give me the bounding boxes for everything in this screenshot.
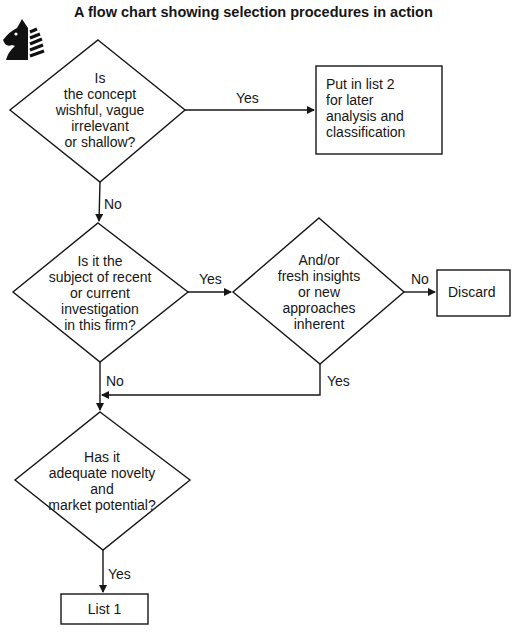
edge-label-q2-q4: No	[106, 373, 124, 389]
edge-q3-q4	[102, 364, 320, 395]
decision-q2-text: Is it the subject of recent or current i…	[40, 253, 160, 333]
edge-q1-q2	[99, 182, 100, 221]
process-list2-text: Put in list 2 for later analysis and cla…	[326, 76, 438, 140]
edge-label-q1-list2: Yes	[236, 90, 259, 106]
decision-q4-text: Has it adequate novelty and market poten…	[42, 449, 162, 513]
process-list1-text: List 1	[61, 601, 148, 617]
decision-q3-text: And/or fresh insights or new approaches …	[259, 252, 379, 332]
edge-label-q2-q3: Yes	[199, 271, 222, 287]
process-discard-text: Discard	[448, 284, 495, 300]
edge-label-q1-q2: No	[104, 196, 122, 212]
edge-label-q3-q4: Yes	[327, 373, 350, 389]
edge-label-q3-discard: No	[411, 271, 429, 287]
edge-label-q4-list1: Yes	[108, 566, 131, 582]
decision-q1-text: Is the concept wishful, vague irrelevant…	[40, 70, 160, 150]
